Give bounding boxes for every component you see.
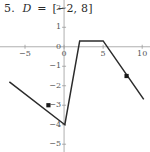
x-tick-label: 5: [101, 50, 106, 58]
y-tick-label: −1: [49, 62, 61, 70]
y-tick-label: 1: [56, 23, 61, 31]
x-tick-label: 10: [137, 50, 147, 58]
y-tick-label: −4: [49, 121, 61, 129]
y-tick-label: 2: [56, 4, 61, 12]
y-tick-label: −3: [49, 101, 61, 109]
y-tick-label: −2: [49, 82, 61, 90]
x-tick-label: 0: [62, 50, 67, 58]
figure-container: 5. D = [−2, 8] −50510210−1−2−3−4−5: [0, 0, 150, 152]
y-tick-label: −5: [49, 140, 61, 148]
x-tick-label: −5: [19, 50, 31, 58]
endpoint-marker: [124, 74, 128, 78]
y-tick-label: 0: [56, 43, 61, 51]
piecewise-linear-plot: [0, 0, 150, 152]
